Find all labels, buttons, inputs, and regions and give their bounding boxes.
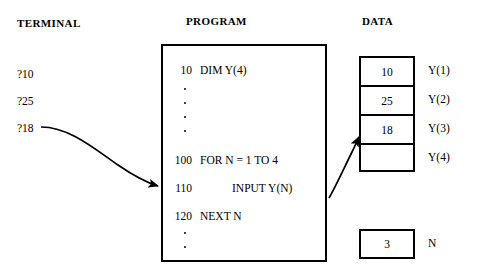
terminal-input-line: ?10 — [17, 68, 34, 80]
ellipsis-dot — [184, 116, 186, 118]
data-column-header: DATA — [362, 15, 393, 27]
basic-array-input-diagram: TERMINAL PROGRAM DATA ?10 ?25 ?18 10 DIM… — [0, 0, 482, 279]
program-column-header: PROGRAM — [186, 15, 247, 27]
data-array-box: 10 25 18 — [359, 56, 415, 172]
array-cell-label-y1: Y(1) — [428, 64, 450, 76]
ellipsis-dot — [184, 88, 186, 90]
array-cell-y1: 10 — [361, 58, 413, 87]
program-line-number: 100 — [160, 154, 192, 166]
array-cell-y2: 25 — [361, 87, 413, 116]
program-listing-box — [161, 44, 327, 262]
program-statement-text: DIM Y(4) — [200, 64, 247, 76]
program-line-number: 10 — [160, 64, 192, 76]
array-cell-y3: 18 — [361, 116, 413, 145]
ellipsis-dot — [184, 232, 186, 234]
program-statement-text: INPUT Y(N) — [232, 182, 292, 194]
array-cell-y4 — [361, 145, 413, 174]
ellipsis-dot — [184, 102, 186, 104]
arrow-input-statement-to-data-cell — [329, 137, 359, 198]
program-line-number: 110 — [160, 182, 192, 194]
array-cell-label-y2: Y(2) — [428, 93, 450, 105]
program-statement-text: FOR N = 1 TO 4 — [200, 154, 278, 166]
array-cell-label-y4: Y(4) — [428, 151, 450, 163]
loop-counter-box: 3 — [359, 229, 415, 259]
array-cell-label-y3: Y(3) — [428, 122, 450, 134]
loop-counter-label: N — [428, 237, 436, 249]
ellipsis-dot — [184, 130, 186, 132]
program-line-number: 120 — [160, 210, 192, 222]
arrow-terminal-to-input-statement — [41, 127, 158, 186]
terminal-input-line: ?25 — [17, 95, 34, 107]
terminal-input-line: ?18 — [17, 122, 34, 134]
terminal-column-header: TERMINAL — [17, 17, 81, 29]
program-statement-text: NEXT N — [200, 210, 242, 222]
ellipsis-dot — [184, 246, 186, 248]
